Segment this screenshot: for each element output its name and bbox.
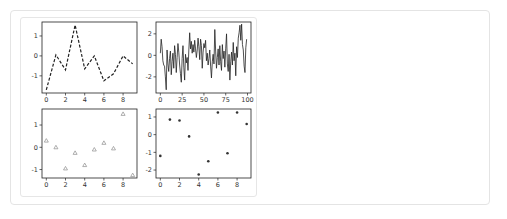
data-point (226, 152, 229, 155)
y-tick-label: 0 (34, 144, 38, 152)
x-tick-label: 2 (63, 96, 67, 104)
figure: 0246810-1 025507510020-2 0246810-1 02468… (20, 17, 257, 197)
data-point (64, 166, 68, 170)
axes-frame (42, 109, 137, 178)
x-tick-label: 2 (177, 181, 181, 189)
y-tick-label: -2 (146, 166, 152, 174)
data-point (207, 160, 210, 163)
data-point (54, 145, 58, 149)
x-tick-label: 6 (216, 181, 220, 189)
data-point (188, 135, 191, 138)
data-point (131, 173, 135, 177)
x-tick-label: 0 (158, 181, 162, 189)
x-tick-label: 8 (121, 96, 125, 104)
x-tick-label: 25 (178, 96, 186, 104)
data-point (159, 155, 162, 158)
data-point (236, 111, 239, 114)
y-tick-label: 1 (34, 32, 38, 40)
x-tick-label: 75 (222, 96, 230, 104)
data-point (245, 123, 248, 126)
data-line (160, 24, 246, 90)
data-point (44, 139, 48, 143)
data-point (197, 173, 200, 176)
y-tick-label: -1 (32, 166, 38, 174)
x-tick-label: 0 (44, 96, 48, 104)
x-tick-label: 6 (102, 96, 106, 104)
y-tick-label: 0 (148, 131, 152, 139)
y-tick-label: 0 (148, 52, 152, 60)
y-tick-label: -2 (146, 73, 152, 81)
x-tick-label: 4 (197, 181, 201, 189)
y-tick-label: -1 (146, 149, 152, 157)
x-tick-label: 2 (63, 181, 67, 189)
x-tick-label: 50 (200, 96, 208, 104)
x-tick-label: 100 (241, 96, 253, 104)
data-point (92, 148, 96, 152)
y-tick-label: 1 (148, 113, 152, 121)
x-tick-label: 6 (102, 181, 106, 189)
x-tick-label: 0 (44, 181, 48, 189)
subplot-top-left: 0246810-1 (32, 22, 137, 104)
data-point (178, 119, 181, 122)
subplot-top-right: 025507510020-2 (146, 22, 254, 104)
x-tick-label: 4 (83, 96, 87, 104)
data-point (83, 163, 87, 167)
subplot-bottom-right: 0246810-1-2 (146, 109, 251, 189)
subplot-bottom-left: 0246810-1 (32, 109, 137, 189)
data-point (73, 151, 77, 155)
x-tick-label: 8 (235, 181, 239, 189)
data-point (121, 112, 125, 116)
x-tick-label: 4 (83, 181, 87, 189)
y-tick-label: -1 (32, 72, 38, 80)
x-tick-label: 8 (121, 181, 125, 189)
y-tick-label: 2 (148, 30, 152, 38)
y-tick-label: 1 (34, 121, 38, 129)
x-tick-label: 0 (158, 96, 162, 104)
data-point (102, 141, 106, 145)
data-point (111, 146, 115, 150)
y-tick-label: 0 (34, 52, 38, 60)
data-point (217, 111, 220, 114)
data-line (46, 25, 132, 90)
data-point (169, 118, 172, 121)
